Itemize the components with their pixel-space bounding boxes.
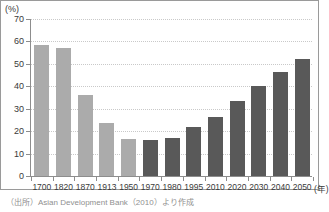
plot-area: 010203040506070 170018201870191319501970… — [30, 19, 312, 177]
gridline — [31, 41, 312, 43]
x-axis-tick-label: 2030 — [249, 182, 268, 192]
gridline — [31, 19, 312, 21]
y-axis-tick-label: 40 — [14, 81, 24, 91]
x-axis-tick — [226, 177, 227, 181]
x-axis-tick — [31, 177, 32, 181]
x-axis-tick-label: 2040 — [271, 182, 290, 192]
gridline — [31, 109, 312, 111]
y-axis-tick-label: 0 — [19, 171, 24, 181]
x-axis-tick — [118, 177, 119, 181]
x-axis-tick — [205, 177, 206, 181]
x-axis-tick-label: 1820 — [54, 182, 73, 192]
bar — [273, 72, 288, 176]
x-axis-tick — [139, 177, 140, 181]
x-axis-tick-label: 1950 — [119, 182, 138, 192]
x-axis-tick — [74, 177, 75, 181]
x-axis-tick-label: 2010 — [206, 182, 225, 192]
bar — [56, 48, 71, 176]
y-axis-tick-label: 20 — [14, 126, 24, 136]
y-axis-tick — [26, 131, 30, 132]
bar — [251, 86, 266, 176]
bar — [78, 95, 93, 176]
y-axis-tick-label: 60 — [14, 36, 24, 46]
y-axis-unit-label: (%) — [5, 4, 19, 14]
bar — [34, 45, 49, 176]
source-note: （出所）Asian Development Bank（2010）より作成 — [6, 196, 194, 207]
y-axis-tick — [26, 19, 30, 20]
bar — [121, 139, 136, 176]
y-axis-tick — [26, 154, 30, 155]
y-axis-tick-label: 50 — [14, 59, 24, 69]
x-axis-tick — [313, 177, 314, 181]
y-axis-tick-label: 30 — [14, 104, 24, 114]
y-axis-tick — [26, 41, 30, 42]
x-axis-tick — [291, 177, 292, 181]
x-axis-unit-label: (年) — [314, 182, 329, 194]
x-axis-tick-label: 1980 — [163, 182, 182, 192]
bar — [295, 59, 310, 176]
gridline — [31, 64, 312, 66]
x-axis-tick — [53, 177, 54, 181]
x-axis-tick-label: 1700 — [32, 182, 51, 192]
y-axis-tick — [26, 109, 30, 110]
x-axis-tick-label: 2020 — [228, 182, 247, 192]
x-axis-tick-label: 1995 — [184, 182, 203, 192]
x-axis-tick — [183, 177, 184, 181]
bar — [99, 123, 114, 176]
y-axis-tick — [26, 86, 30, 87]
x-axis-tick-label: 1870 — [76, 182, 95, 192]
x-axis-tick-label: 1913 — [97, 182, 116, 192]
bar — [143, 140, 158, 176]
y-axis-tick — [26, 64, 30, 65]
x-axis-tick — [161, 177, 162, 181]
bar — [230, 101, 245, 176]
bar — [165, 138, 180, 176]
y-axis-tick-label: 10 — [14, 149, 24, 159]
y-axis-tick-label: 70 — [14, 14, 24, 24]
x-axis-tick — [270, 177, 271, 181]
x-axis-tick-label: 2050 — [293, 182, 312, 192]
x-axis-tick — [248, 177, 249, 181]
x-axis-tick — [96, 177, 97, 181]
bar — [208, 117, 223, 176]
x-axis-tick-label: 1970 — [141, 182, 160, 192]
y-axis-tick — [26, 176, 30, 177]
gridline — [31, 86, 312, 88]
gridline — [31, 131, 312, 133]
bar — [186, 127, 201, 176]
